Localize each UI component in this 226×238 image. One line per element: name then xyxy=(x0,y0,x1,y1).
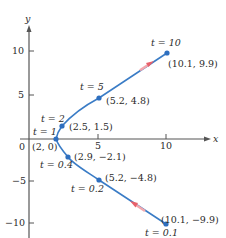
coord-label: (10.1, −9.9) xyxy=(161,214,219,225)
y-tick-label: 5 xyxy=(18,89,24,100)
t-label: t = 0.4 xyxy=(40,159,73,170)
origin-label: 0 xyxy=(19,141,25,152)
y-tick-label: −10 xyxy=(5,217,25,228)
t-label: t = 0.2 xyxy=(71,183,104,194)
point-t10 xyxy=(164,50,169,55)
t-label: t = 10 xyxy=(151,37,181,48)
y-tick-label: −5 xyxy=(12,175,26,186)
t-label: t = 5 xyxy=(80,81,104,92)
t-label: t = 2 xyxy=(41,113,65,124)
point-t5 xyxy=(96,95,101,100)
direction-arrow-trail xyxy=(136,205,145,211)
t-label: t = 0.1 xyxy=(145,227,178,238)
y-axis-arrow-icon xyxy=(27,25,32,32)
parametric-curve-diagram: y x 0 10 5 −5 −10 5 10 t = 10 t = 5 t = … xyxy=(0,0,226,238)
y-axis-label: y xyxy=(24,13,31,24)
x-axis-arrow-icon xyxy=(204,137,211,142)
point-t0.2 xyxy=(96,177,101,182)
coord-label: (2.9, −2.1) xyxy=(74,151,126,162)
t-label: t = 1 xyxy=(33,126,57,137)
x-axis-label: x xyxy=(213,133,219,144)
x-tick-label: 10 xyxy=(160,140,172,151)
coord-label: (5.2, 4.8) xyxy=(106,95,150,106)
direction-arrow-trail xyxy=(140,65,148,70)
coord-label: (10.1, 9.9) xyxy=(168,58,218,69)
coord-label: (2, 0) xyxy=(32,141,58,152)
point-t2 xyxy=(59,123,64,128)
y-tick-label: 10 xyxy=(12,45,24,56)
coord-label: (2.5, 1.5) xyxy=(69,121,113,132)
x-tick-label: 5 xyxy=(95,140,101,151)
coord-label: (5.2, −4.8) xyxy=(105,172,157,183)
